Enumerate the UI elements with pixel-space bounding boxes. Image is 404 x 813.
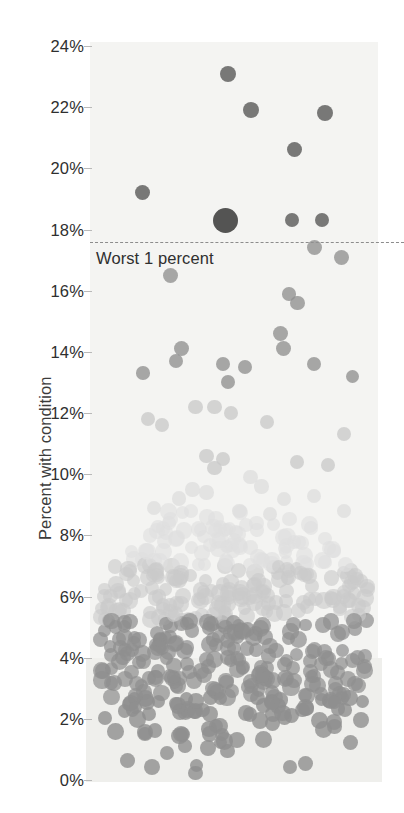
y-tick-14: 14% — [28, 343, 84, 361]
y-tick-label: 12% — [28, 404, 84, 422]
chart-root: Percent with condition 0%2%4%6%8%10%12%1… — [0, 0, 404, 813]
y-tick-10: 10% — [28, 465, 84, 483]
y-tick-mark — [84, 780, 92, 781]
y-tick-label: 20% — [28, 159, 84, 177]
y-tick-24: 24% — [28, 37, 84, 55]
y-tick-mark — [84, 352, 92, 353]
y-tick-label: 2% — [28, 710, 84, 728]
y-tick-mark — [84, 107, 92, 108]
y-tick-mark — [84, 535, 92, 536]
y-tick-label: 0% — [28, 771, 84, 789]
y-tick-mark — [84, 413, 92, 414]
plot-background-lower-band — [86, 658, 382, 782]
y-tick-12: 12% — [28, 404, 84, 422]
y-tick-label: 16% — [28, 282, 84, 300]
y-tick-mark — [84, 230, 92, 231]
y-tick-mark — [84, 597, 92, 598]
y-tick-0: 0% — [28, 771, 84, 789]
y-tick-label: 6% — [28, 588, 84, 606]
y-tick-mark — [84, 658, 92, 659]
y-tick-8: 8% — [28, 526, 84, 544]
y-tick-mark — [84, 46, 92, 47]
y-tick-2: 2% — [28, 710, 84, 728]
y-tick-label: 18% — [28, 221, 84, 239]
plot-background-upper-band — [90, 42, 378, 658]
y-tick-label: 14% — [28, 343, 84, 361]
y-tick-mark — [84, 291, 92, 292]
worst-1-percent-line — [90, 242, 404, 243]
y-tick-22: 22% — [28, 98, 84, 116]
y-tick-label: 4% — [28, 649, 84, 667]
y-tick-16: 16% — [28, 282, 84, 300]
y-tick-label: 22% — [28, 98, 84, 116]
y-tick-mark — [84, 719, 92, 720]
y-tick-label: 10% — [28, 465, 84, 483]
y-tick-20: 20% — [28, 159, 84, 177]
y-tick-18: 18% — [28, 221, 84, 239]
y-tick-mark — [84, 474, 92, 475]
y-tick-6: 6% — [28, 588, 84, 606]
y-tick-4: 4% — [28, 649, 84, 667]
worst-1-percent-label: Worst 1 percent — [96, 249, 214, 268]
y-tick-label: 8% — [28, 526, 84, 544]
y-tick-label: 24% — [28, 37, 84, 55]
y-tick-mark — [84, 168, 92, 169]
